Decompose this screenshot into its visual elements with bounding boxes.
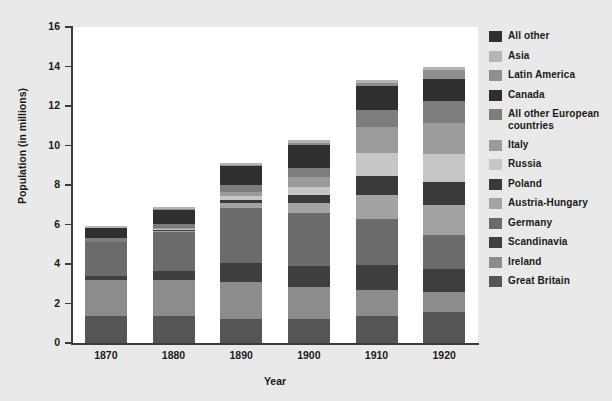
legend-item-all-other[interactable]: All other xyxy=(489,30,607,42)
bar-segment-all-other-european-countries[interactable] xyxy=(356,110,398,127)
bar-segment-latin-america[interactable] xyxy=(220,165,262,166)
bar-1890[interactable] xyxy=(220,27,262,343)
bar-segment-ireland[interactable] xyxy=(153,280,195,317)
bar-segment-germany[interactable] xyxy=(356,219,398,265)
bar-segment-latin-america[interactable] xyxy=(153,209,195,210)
x-axis-line xyxy=(71,343,479,345)
bar-segment-scandinavia[interactable] xyxy=(288,266,330,287)
bar-segment-russia[interactable] xyxy=(153,229,195,230)
bar-segment-asia[interactable] xyxy=(220,163,262,165)
bar-segment-all-other-european-countries[interactable] xyxy=(153,224,195,229)
bar-segment-great-britain[interactable] xyxy=(356,316,398,343)
bar-segment-canada[interactable] xyxy=(423,79,465,101)
bar-segment-germany[interactable] xyxy=(288,213,330,266)
legend-item-asia[interactable]: Asia xyxy=(489,50,607,62)
legend-item-germany[interactable]: Germany xyxy=(489,217,607,229)
bar-segment-scandinavia[interactable] xyxy=(423,269,465,292)
y-axis-tick xyxy=(65,303,72,305)
bar-segment-canada[interactable] xyxy=(356,86,398,110)
bar-segment-poland[interactable] xyxy=(356,176,398,195)
bar-segment-austria-hungary[interactable] xyxy=(220,203,262,208)
bar-segment-italy[interactable] xyxy=(423,123,465,155)
bar-segment-austria-hungary[interactable] xyxy=(153,231,195,232)
bar-segment-austria-hungary[interactable] xyxy=(423,205,465,236)
bar-segment-all-other-european-countries[interactable] xyxy=(288,168,330,177)
bar-segment-ireland[interactable] xyxy=(356,290,398,317)
bar-segment-poland[interactable] xyxy=(220,200,262,203)
x-axis-title: Year xyxy=(72,375,478,387)
bar-segment-scandinavia[interactable] xyxy=(85,276,127,280)
legend-item-latin-america[interactable]: Latin America xyxy=(489,69,607,81)
bar-segment-ireland[interactable] xyxy=(220,282,262,320)
y-axis-tick xyxy=(65,105,72,107)
bar-segment-italy[interactable] xyxy=(153,228,195,229)
bar-segment-all-other-european-countries[interactable] xyxy=(220,185,262,192)
y-axis-tick xyxy=(65,184,72,186)
legend-item-poland[interactable]: Poland xyxy=(489,178,607,190)
bar-segment-all-other-european-countries[interactable] xyxy=(85,238,127,242)
legend-item-austria-hungary[interactable]: Austria-Hungary xyxy=(489,197,607,209)
bar-segment-great-britain[interactable] xyxy=(288,319,330,343)
bar-segment-russia[interactable] xyxy=(356,153,398,176)
bar-segment-canada[interactable] xyxy=(288,145,330,169)
bar-segment-scandinavia[interactable] xyxy=(153,271,195,280)
bar-segment-canada[interactable] xyxy=(220,166,262,185)
legend-item-label: Austria-Hungary xyxy=(508,197,588,209)
y-axis-tick-label: 12 xyxy=(30,99,60,111)
legend-item-italy[interactable]: Italy xyxy=(489,139,607,151)
legend-swatch-icon xyxy=(489,51,502,62)
bar-segment-poland[interactable] xyxy=(288,195,330,203)
bar-1910[interactable] xyxy=(356,27,398,343)
bar-segment-germany[interactable] xyxy=(85,242,127,276)
legend-item-great-britain[interactable]: Great Britain xyxy=(489,275,607,287)
legend-item-ireland[interactable]: Ireland xyxy=(489,256,607,268)
bar-segment-poland[interactable] xyxy=(423,182,465,205)
bar-segment-asia[interactable] xyxy=(85,226,127,228)
y-axis-tick xyxy=(65,66,72,68)
legend-item-label: All other xyxy=(508,30,549,42)
bar-segment-asia[interactable] xyxy=(153,207,195,209)
bar-segment-latin-america[interactable] xyxy=(288,143,330,145)
bar-1920[interactable] xyxy=(423,27,465,343)
bar-segment-poland[interactable] xyxy=(153,230,195,231)
bar-segment-great-britain[interactable] xyxy=(153,316,195,343)
bar-segment-germany[interactable] xyxy=(153,232,195,271)
bar-segment-ireland[interactable] xyxy=(85,280,127,317)
bar-segment-asia[interactable] xyxy=(288,140,330,143)
bar-segment-asia[interactable] xyxy=(423,67,465,71)
x-axis-tick-label: 1880 xyxy=(139,349,209,361)
bar-1870[interactable] xyxy=(85,27,127,343)
bar-segment-great-britain[interactable] xyxy=(85,316,127,343)
legend-swatch-icon xyxy=(489,218,502,229)
bar-segment-ireland[interactable] xyxy=(288,287,330,320)
bar-segment-great-britain[interactable] xyxy=(220,319,262,343)
bar-segment-canada[interactable] xyxy=(153,210,195,224)
bar-segment-germany[interactable] xyxy=(423,235,465,269)
bar-segment-italy[interactable] xyxy=(220,192,262,196)
bar-segment-russia[interactable] xyxy=(220,196,262,200)
bar-segment-canada[interactable] xyxy=(85,228,127,238)
bar-segment-italy[interactable] xyxy=(356,127,398,154)
bar-segment-russia[interactable] xyxy=(423,154,465,182)
bar-segment-latin-america[interactable] xyxy=(423,70,465,79)
bar-segment-italy[interactable] xyxy=(288,177,330,187)
bar-segment-great-britain[interactable] xyxy=(423,312,465,343)
bar-segment-asia[interactable] xyxy=(356,80,398,83)
bar-segment-austria-hungary[interactable] xyxy=(356,195,398,219)
bar-segment-ireland[interactable] xyxy=(423,292,465,313)
bar-segment-scandinavia[interactable] xyxy=(356,265,398,290)
bar-segment-latin-america[interactable] xyxy=(356,83,398,86)
bar-segment-austria-hungary[interactable] xyxy=(288,203,330,213)
bar-1880[interactable] xyxy=(153,27,195,343)
bar-segment-russia[interactable] xyxy=(288,187,330,195)
bar-1900[interactable] xyxy=(288,27,330,343)
bar-segment-all-other-european-countries[interactable] xyxy=(423,101,465,123)
bar-segment-germany[interactable] xyxy=(220,208,262,263)
legend-swatch-icon xyxy=(489,90,502,101)
y-axis-tick-label: 6 xyxy=(30,218,60,230)
legend-item-canada[interactable]: Canada xyxy=(489,89,607,101)
bar-segment-scandinavia[interactable] xyxy=(220,263,262,282)
legend-item-scandinavia[interactable]: Scandinavia xyxy=(489,236,607,248)
legend-item-all-other-european-countries[interactable]: All other European countries xyxy=(489,108,607,131)
legend-item-russia[interactable]: Russia xyxy=(489,158,607,170)
